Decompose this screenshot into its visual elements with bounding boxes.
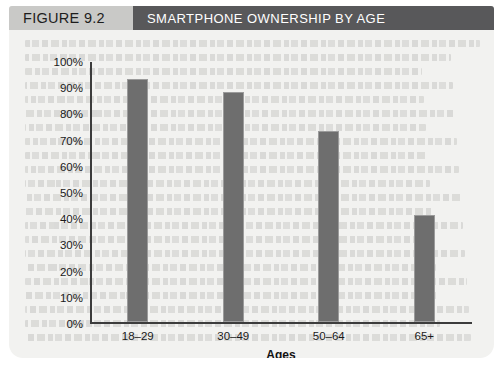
y-axis-tick-label: 90%: [60, 82, 83, 94]
bar: [318, 131, 339, 322]
y-axis-tick-label: 100%: [54, 56, 83, 68]
y-axis-tick-label: 50%: [60, 187, 83, 199]
x-axis-tick-label: 50–64: [313, 330, 345, 342]
x-axis-tick-label: 18–29: [122, 330, 154, 342]
y-axis-tick-label: 40%: [60, 213, 83, 225]
y-axis-tick-label: 70%: [60, 135, 83, 147]
bar: [127, 79, 148, 323]
figure-number-label: FIGURE 9.2: [23, 10, 105, 26]
figure-title-label: SMARTPHONE OWNERSHIP BY AGE: [147, 11, 385, 26]
x-axis-line: [90, 322, 472, 324]
y-axis-tick-label: 20%: [60, 266, 83, 278]
figure-title-band: SMARTPHONE OWNERSHIP BY AGE: [133, 6, 494, 30]
figure-container: FIGURE 9.2 SMARTPHONE OWNERSHIP BY AGE 1…: [9, 6, 494, 358]
plot-area: 100%90%80%70%60%50%40%30%20%10%0% 18–293…: [90, 62, 472, 324]
x-axis-tick-label: 30–49: [217, 330, 249, 342]
y-axis-tick-label: 60%: [60, 161, 83, 173]
figure-number-band: FIGURE 9.2: [9, 6, 133, 30]
figure-header: FIGURE 9.2 SMARTPHONE OWNERSHIP BY AGE: [9, 6, 494, 30]
x-axis-tick-label: 65+: [414, 330, 434, 342]
y-axis-line: [90, 62, 92, 324]
bar: [223, 92, 244, 323]
y-axis-tick-label: 30%: [60, 239, 83, 251]
y-axis-tick-label: 0%: [66, 318, 83, 330]
y-axis-tick-label: 80%: [60, 108, 83, 120]
bar: [414, 215, 435, 322]
y-axis-tick-label: 10%: [60, 292, 83, 304]
x-axis-title: Ages: [90, 348, 472, 358]
bar-chart: 100%90%80%70%60%50%40%30%20%10%0% 18–293…: [9, 30, 494, 358]
